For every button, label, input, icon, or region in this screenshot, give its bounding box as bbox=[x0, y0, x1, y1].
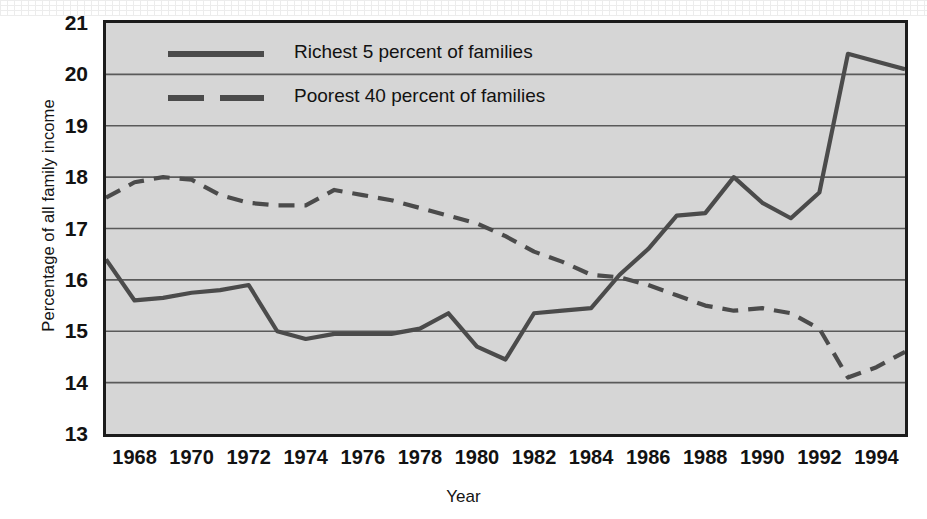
x-axis-tick-labels: 1968197019721974197619781980198219841986… bbox=[0, 0, 927, 519]
x-axis-title: Year bbox=[0, 487, 927, 507]
chart-figure: Percentage of all family income 21201918… bbox=[0, 0, 927, 519]
x-tick-label: 1994 bbox=[836, 447, 916, 467]
